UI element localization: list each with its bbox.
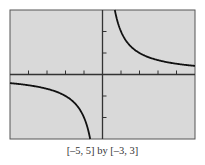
graph-window <box>0 0 205 145</box>
window-caption: [–5, 5] by [–3, 3] <box>0 145 205 156</box>
